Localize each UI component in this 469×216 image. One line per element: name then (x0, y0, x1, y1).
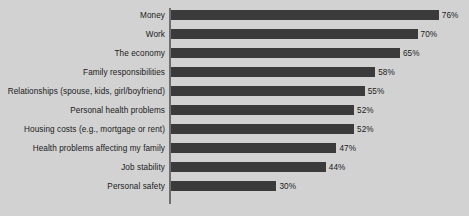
bar-track (171, 143, 337, 153)
category-label: Personal health problems (70, 101, 165, 120)
bar-segment (171, 10, 439, 20)
bar-segment (171, 143, 337, 153)
bar-track (171, 86, 365, 96)
bar-track (171, 67, 376, 77)
category-label: Housing costs (e.g., mortgage or rent) (24, 120, 165, 139)
bar-track (171, 124, 355, 134)
bar-segment (171, 105, 355, 115)
bar-segment (171, 124, 355, 134)
bar-segment (171, 48, 400, 58)
plot-area: Money76%Work70%The economy65%Family resp… (0, 0, 469, 216)
bar-value-label: 30% (279, 177, 296, 196)
bar-value-label: 52% (357, 120, 374, 139)
bar-row: Work70% (0, 25, 469, 44)
bar-segment (171, 181, 277, 191)
bar-row: Personal safety30% (0, 177, 469, 196)
bar-row: Job stability44% (0, 158, 469, 177)
bar-row: The economy65% (0, 44, 469, 63)
bar-row: Housing costs (e.g., mortgage or rent)52… (0, 120, 469, 139)
category-label: Family responsibilities (83, 63, 165, 82)
category-label: Health problems affecting my family (33, 139, 165, 158)
bar-value-label: 65% (403, 44, 420, 63)
bar-value-label: 70% (421, 25, 438, 44)
bar-value-label: 44% (329, 158, 346, 177)
bar-chart: Money76%Work70%The economy65%Family resp… (0, 0, 469, 216)
category-label: Personal safety (107, 177, 165, 196)
bar-segment (171, 86, 365, 96)
bar-track (171, 162, 326, 172)
category-label: The economy (115, 44, 166, 63)
bar-segment (171, 67, 376, 77)
bar-track (171, 48, 400, 58)
bar-track (171, 10, 439, 20)
bar-value-label: 52% (357, 101, 374, 120)
bar-row: Family responsibilities58% (0, 63, 469, 82)
bar-value-label: 55% (368, 82, 385, 101)
bar-track (171, 181, 277, 191)
bar-row: Personal health problems52% (0, 101, 469, 120)
bar-track (171, 29, 418, 39)
bar-row: Money76% (0, 6, 469, 25)
category-label: Work (146, 25, 165, 44)
bar-segment (171, 29, 418, 39)
bar-row: Health problems affecting my family47% (0, 139, 469, 158)
bar-segment (171, 162, 326, 172)
bar-track (171, 105, 355, 115)
bar-row: Relationships (spouse, kids, girl/boyfri… (0, 82, 469, 101)
bar-value-label: 58% (378, 63, 395, 82)
category-label: Relationships (spouse, kids, girl/boyfri… (8, 82, 165, 101)
bar-value-label: 47% (339, 139, 356, 158)
category-label: Job stability (121, 158, 165, 177)
bar-value-label: 76% (442, 6, 459, 25)
category-label: Money (140, 6, 165, 25)
